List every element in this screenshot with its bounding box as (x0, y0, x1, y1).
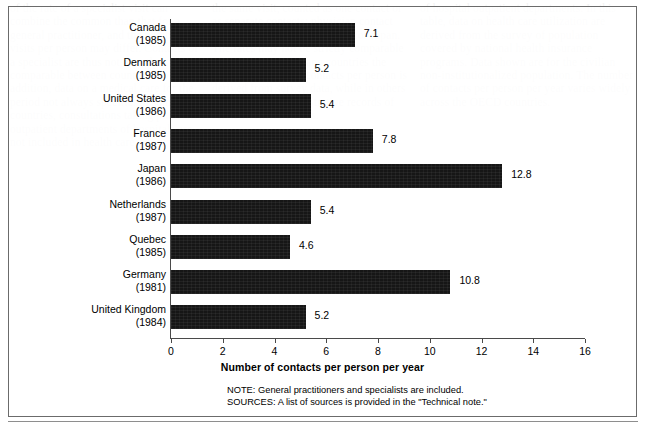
bar-category-label: Germany(1981) (9, 268, 166, 294)
bar-value-label: 5.4 (320, 98, 335, 110)
country-year: (1981) (9, 281, 166, 294)
x-axis-tick-label: 2 (208, 345, 238, 357)
bar-category-label: United States(1986) (9, 92, 166, 118)
table-row: Quebec(1985)4.6 (9, 231, 636, 266)
country-year: (1987) (9, 211, 166, 224)
bar-value-label: 5.2 (315, 62, 330, 74)
x-axis-tick-label: 8 (363, 345, 393, 357)
bar-category-label: Denmark(1985) (9, 56, 166, 82)
x-axis-tick (326, 339, 327, 343)
chart-frame: Canada(1985)7.1Denmark(1985)5.2United St… (8, 6, 637, 417)
bar (171, 305, 306, 329)
x-axis-tick-label: 4 (260, 345, 290, 357)
x-axis-tick-label: 16 (570, 345, 600, 357)
country-name: Quebec (129, 233, 166, 245)
bar-value-label: 5.2 (315, 309, 330, 321)
country-name: Denmark (123, 56, 166, 68)
bar-chart-plot: Canada(1985)7.1Denmark(1985)5.2United St… (9, 7, 636, 416)
bar (171, 23, 355, 47)
country-year: (1985) (9, 246, 166, 259)
country-name: France (133, 127, 166, 139)
bar-category-label: Quebec(1985) (9, 233, 166, 259)
country-year: (1985) (9, 69, 166, 82)
x-axis-tick (275, 339, 276, 343)
x-axis-tick-label: 6 (311, 345, 341, 357)
country-year: (1984) (9, 316, 166, 329)
x-axis-tick-label: 14 (518, 345, 548, 357)
chart-sources: SOURCES: A list of sources is provided i… (227, 397, 487, 407)
bar (171, 129, 373, 153)
table-row: United Kingdom(1984)5.2 (9, 301, 636, 336)
x-axis-tick (585, 339, 586, 343)
country-name: United Kingdom (91, 303, 166, 315)
bar-category-label: United Kingdom(1984) (9, 303, 166, 329)
table-row: France(1987)7.8 (9, 125, 636, 160)
x-axis-tick (378, 339, 379, 343)
country-year: (1986) (9, 175, 166, 188)
country-name: Japan (137, 162, 166, 174)
table-row: Denmark(1985)5.2 (9, 54, 636, 89)
country-year: (1987) (9, 140, 166, 153)
country-year: (1985) (9, 34, 166, 47)
bar-value-label: 10.8 (459, 274, 479, 286)
chart-note: NOTE: General practitioners and speciali… (227, 385, 464, 395)
country-name: Canada (129, 21, 166, 33)
bar (171, 164, 502, 188)
page-bottom-rule (8, 421, 638, 422)
country-name: Netherlands (109, 198, 166, 210)
country-name: Germany (123, 268, 166, 280)
x-axis-title: Number of contacts per person per year (9, 361, 636, 373)
table-row: Canada(1985)7.1 (9, 19, 636, 54)
x-axis-tick (533, 339, 534, 343)
bar-value-label: 5.4 (320, 204, 335, 216)
bar-category-label: Netherlands(1987) (9, 198, 166, 224)
bar-value-label: 12.8 (511, 168, 531, 180)
country-year: (1986) (9, 105, 166, 118)
x-axis-tick (482, 339, 483, 343)
bar (171, 58, 306, 82)
bar-value-label: 7.8 (382, 133, 397, 145)
x-axis-tick (171, 339, 172, 343)
country-name: United States (103, 92, 166, 104)
bar (171, 200, 311, 224)
x-axis-tick-label: 0 (156, 345, 186, 357)
x-axis-tick-label: 12 (467, 345, 497, 357)
bar-category-label: Canada(1985) (9, 21, 166, 47)
table-row: United States(1986)5.4 (9, 90, 636, 125)
x-axis-tick-label: 10 (415, 345, 445, 357)
bar-category-label: Japan(1986) (9, 162, 166, 188)
bar-category-label: France(1987) (9, 127, 166, 153)
bar (171, 94, 311, 118)
bar-value-label: 7.1 (364, 27, 379, 39)
x-axis-tick (223, 339, 224, 343)
table-row: Japan(1986)12.8 (9, 160, 636, 195)
bar (171, 270, 450, 294)
bar (171, 235, 290, 259)
bar-value-label: 4.6 (299, 239, 314, 251)
table-row: Germany(1981)10.8 (9, 266, 636, 301)
table-row: Netherlands(1987)5.4 (9, 196, 636, 231)
x-axis-tick (430, 339, 431, 343)
